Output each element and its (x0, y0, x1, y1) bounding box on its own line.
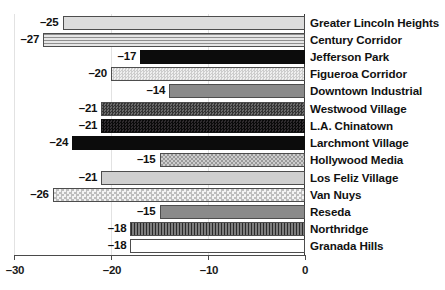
category-label: Figueroa Corridor (310, 68, 407, 80)
x-axis-line (14, 255, 305, 256)
bar-row: –18 (14, 239, 305, 253)
bar-row: –24 (14, 136, 305, 150)
category-label: Jefferson Park (310, 51, 389, 63)
bar[interactable] (63, 16, 306, 30)
category-label: Greater Lincoln Heights (310, 17, 439, 29)
bar-row: –14 (14, 84, 305, 98)
bar-value-label: –17 (118, 51, 137, 63)
bar[interactable] (101, 102, 305, 116)
category-label: Larchmont Village (310, 137, 409, 149)
category-label: Downtown Industrial (310, 86, 422, 98)
bar[interactable] (111, 67, 305, 81)
bar-row: –18 (14, 222, 305, 236)
bar-row: –25 (14, 16, 305, 30)
bar-value-label: –25 (40, 17, 59, 29)
bar-value-label: –21 (79, 120, 98, 132)
bar-row: –15 (14, 153, 305, 167)
bar-row: –17 (14, 50, 305, 64)
bar[interactable] (130, 222, 305, 236)
bar-value-label: –18 (108, 223, 127, 235)
category-label: Hollywood Media (310, 155, 403, 167)
bar-row: –15 (14, 205, 305, 219)
x-tick-label-minus30: –30 (6, 264, 25, 276)
bar-chart: –25–27–17–20–14–21–21–24–15–21–26–15–18–… (0, 0, 445, 290)
bar-row: –21 (14, 102, 305, 116)
bar[interactable] (72, 136, 305, 150)
bar[interactable] (101, 171, 305, 185)
bar-value-label: –24 (50, 137, 69, 149)
bar-row: –20 (14, 67, 305, 81)
category-label: Reseda (310, 206, 351, 218)
bar-value-label: –26 (30, 189, 49, 201)
category-label: Westwood Village (310, 103, 407, 115)
x-tick-minus10 (208, 255, 209, 260)
bar-value-label: –14 (147, 86, 166, 98)
x-tick-label-zero: 0 (302, 264, 308, 276)
x-tick-label-minus10: –10 (200, 264, 219, 276)
bar[interactable] (140, 50, 305, 64)
x-tick-minus30 (14, 255, 15, 260)
category-label: Century Corridor (310, 34, 402, 46)
bar[interactable] (160, 205, 306, 219)
bar-value-label: –15 (137, 206, 156, 218)
category-label: Granada Hills (310, 241, 383, 253)
category-label: Los Feliz Village (310, 172, 398, 184)
bar-value-label: –21 (79, 172, 98, 184)
bar-value-label: –15 (137, 155, 156, 167)
bar-row: –21 (14, 171, 305, 185)
x-tick-zero (305, 255, 306, 260)
bar-row: –21 (14, 119, 305, 133)
bar-value-label: –20 (88, 69, 107, 81)
bar-row: –26 (14, 188, 305, 202)
x-tick-label-minus20: –20 (103, 264, 122, 276)
category-label: L.A. Chinatown (310, 120, 393, 132)
category-label: Northridge (310, 223, 368, 235)
x-tick-minus20 (111, 255, 112, 260)
bar[interactable] (160, 153, 306, 167)
bar[interactable] (130, 239, 305, 253)
bar-value-label: –27 (21, 34, 40, 46)
bar[interactable] (53, 188, 305, 202)
bar[interactable] (43, 33, 305, 47)
plot-area: –25–27–17–20–14–21–21–24–15–21–26–15–18–… (14, 14, 305, 255)
bar-value-label: –18 (108, 241, 127, 253)
category-label: Van Nuys (310, 189, 361, 201)
bar[interactable] (169, 84, 305, 98)
bar[interactable] (101, 119, 305, 133)
bar-row: –27 (14, 33, 305, 47)
bar-value-label: –21 (79, 103, 98, 115)
